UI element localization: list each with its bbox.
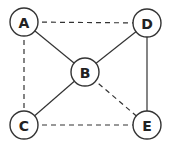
node-a-label: A bbox=[19, 15, 30, 31]
node-e: E bbox=[133, 111, 161, 139]
edge-a-d bbox=[24, 22, 147, 23]
node-d-label: D bbox=[141, 16, 153, 32]
node-b-label: B bbox=[80, 65, 91, 81]
nodes-layer: A B C D E bbox=[10, 8, 161, 139]
graph-diagram: A B C D E bbox=[0, 0, 170, 147]
node-c: C bbox=[10, 111, 38, 139]
node-a: A bbox=[10, 8, 38, 36]
node-d: D bbox=[133, 9, 161, 37]
node-c-label: C bbox=[19, 118, 29, 134]
node-b: B bbox=[71, 58, 99, 86]
graph-canvas: A B C D E bbox=[0, 0, 170, 147]
node-e-label: E bbox=[142, 118, 152, 134]
